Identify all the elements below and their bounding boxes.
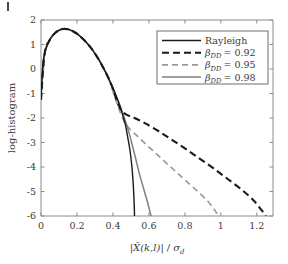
x-tick-label: 0.2 bbox=[69, 220, 84, 231]
y-tick-label: -5 bbox=[27, 186, 36, 197]
y-tick-label: -4 bbox=[27, 161, 36, 172]
legend-label-0: Rayleigh bbox=[205, 35, 247, 46]
y-tick-label: 0 bbox=[30, 63, 36, 74]
y-tick-label: 1 bbox=[30, 39, 36, 50]
x-tick-label: 0.6 bbox=[141, 220, 156, 231]
chart-legend: RayleighβDD= 0.92βDD= 0.95βDD= 0.98 bbox=[157, 31, 268, 85]
figure-container: 00.20.40.60.811.2 210-1-2-3-4-5-6 Raylei… bbox=[0, 0, 288, 264]
x-label-sigma-sub: d bbox=[180, 248, 185, 256]
x-tick-label: 1.2 bbox=[249, 220, 264, 231]
y-tick-label: -2 bbox=[27, 112, 36, 123]
y-tick-label: -6 bbox=[27, 210, 36, 221]
y-tick-label: -3 bbox=[27, 137, 36, 148]
x-tick-label: 0.4 bbox=[105, 220, 120, 231]
y-tick-label: -1 bbox=[27, 88, 36, 99]
chart-canvas: 00.20.40.60.811.2 210-1-2-3-4-5-6 Raylei… bbox=[0, 0, 288, 264]
x-tick-label: 0 bbox=[38, 220, 44, 231]
y-axis-title: log-histogram bbox=[6, 82, 17, 153]
x-label-args: (k,l) bbox=[140, 242, 160, 253]
y-tick-label: 2 bbox=[30, 14, 36, 25]
x-tick-label: 1 bbox=[218, 220, 224, 231]
corner-artifact bbox=[7, 2, 9, 11]
x-tick-label: 0.8 bbox=[177, 220, 192, 231]
x-label-abs-close: | bbox=[160, 242, 163, 254]
